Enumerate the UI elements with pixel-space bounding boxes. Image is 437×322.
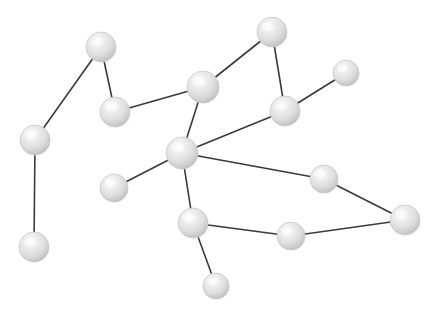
node-layer <box>19 17 420 299</box>
graph-node-highlight <box>315 170 326 178</box>
graph-node-highlight <box>207 278 217 286</box>
network-graph-figure <box>0 0 437 322</box>
graph-node-circle[interactable] <box>100 174 128 202</box>
graph-node[interactable] <box>257 17 287 47</box>
graph-edge <box>291 220 405 236</box>
graph-node[interactable] <box>270 96 300 126</box>
graph-node-highlight <box>282 227 293 235</box>
graph-node-circle[interactable] <box>100 97 130 127</box>
graph-node-highlight <box>105 102 117 111</box>
graph-node-highlight <box>105 179 116 187</box>
graph-edge <box>35 47 101 140</box>
graph-node[interactable] <box>100 97 130 127</box>
graph-node-highlight <box>395 210 407 219</box>
graph-node-circle[interactable] <box>333 60 359 86</box>
graph-node[interactable] <box>166 137 198 169</box>
graph-node[interactable] <box>19 232 49 262</box>
graph-edge <box>182 153 324 179</box>
graph-node[interactable] <box>178 208 208 238</box>
graph-node-circle[interactable] <box>310 165 338 193</box>
graph-node-circle[interactable] <box>166 137 198 169</box>
graph-node-circle[interactable] <box>277 222 305 250</box>
graph-node[interactable] <box>187 71 219 103</box>
graph-node[interactable] <box>333 60 359 86</box>
graph-node-circle[interactable] <box>390 205 420 235</box>
graph-node-circle[interactable] <box>86 32 116 62</box>
graph-node-circle[interactable] <box>257 17 287 47</box>
graph-node-highlight <box>91 37 103 46</box>
graph-node-highlight <box>171 143 184 153</box>
graph-node[interactable] <box>277 222 305 250</box>
graph-node-highlight <box>262 22 274 31</box>
graph-node-circle[interactable] <box>20 125 50 155</box>
graph-node-highlight <box>183 213 195 222</box>
graph-node-circle[interactable] <box>19 232 49 262</box>
graph-node[interactable] <box>203 273 229 299</box>
graph-node-highlight <box>337 65 347 73</box>
graph-node-highlight <box>275 101 287 110</box>
graph-node-circle[interactable] <box>203 273 229 299</box>
graph-node[interactable] <box>310 165 338 193</box>
graph-edge <box>182 111 285 153</box>
graph-node[interactable] <box>86 32 116 62</box>
graph-node[interactable] <box>390 205 420 235</box>
graph-node[interactable] <box>100 174 128 202</box>
graph-node-circle[interactable] <box>178 208 208 238</box>
network-graph-svg <box>0 0 437 322</box>
graph-node-circle[interactable] <box>187 71 219 103</box>
graph-node-highlight <box>24 237 36 246</box>
graph-node[interactable] <box>20 125 50 155</box>
graph-node-highlight <box>25 130 37 139</box>
graph-node-highlight <box>192 77 205 87</box>
graph-node-circle[interactable] <box>270 96 300 126</box>
